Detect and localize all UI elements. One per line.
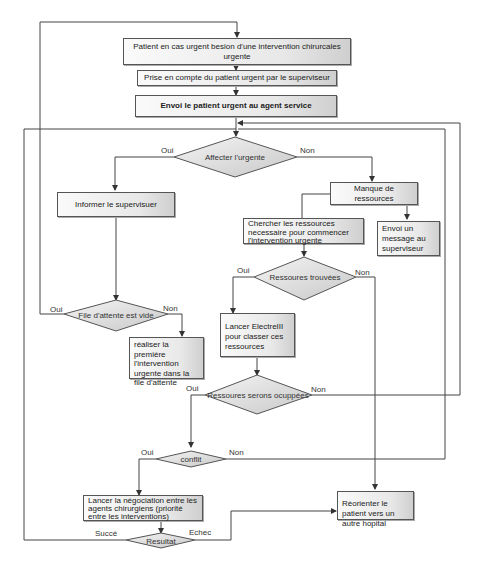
edge-label-trouvees-oui: Oui bbox=[237, 266, 249, 275]
decision-conflit: conflit bbox=[181, 455, 202, 464]
decision-file-attente-vide: File d'attente est vide bbox=[78, 311, 153, 320]
node-informer-superviseur: Informer le supervisuer bbox=[57, 192, 175, 217]
node-prise-en-compte: Prise en compte du patient urgent par le… bbox=[137, 70, 337, 86]
decision-resultat: Resultat bbox=[146, 537, 175, 546]
node-patient-urgent: Patient en cas urgent besion d'une inter… bbox=[123, 38, 351, 65]
node-chercher-ressources: Chercher les ressources necessaire pour … bbox=[243, 218, 364, 244]
edge-label-occupees-oui: Oui bbox=[186, 384, 198, 393]
node-reorienter-patient: Réorienter le patient vers un autre hopi… bbox=[337, 491, 414, 520]
node-lancer-electre: Lancer ElectreIII pour classer ces resso… bbox=[220, 313, 295, 357]
edge-label-resultat-echec: Echec bbox=[189, 528, 211, 537]
edge-label-affecter-oui: Oui bbox=[161, 146, 173, 155]
edge-label-file-non: Non bbox=[163, 304, 178, 313]
node-envoi-message: Envoi un message au superviseur bbox=[377, 221, 440, 256]
node-realiser-premiere: réaliser la première l'intervention urge… bbox=[129, 337, 204, 379]
edge-label-file-oui: Oui bbox=[50, 305, 62, 314]
node-lancer-negociation: Lancer la négociation entre les agents c… bbox=[83, 495, 203, 521]
edge-label-trouvees-non: Non bbox=[355, 268, 370, 277]
edge-label-resultat-succes: Succé bbox=[95, 529, 117, 538]
decision-ressources-trouvees: Ressoures trouvées bbox=[269, 273, 340, 282]
edge-label-conflit-oui: Oui bbox=[141, 448, 153, 457]
edge-label-occupees-non: Non bbox=[311, 385, 326, 394]
decision-ressources-occupees: Ressoures serons ocuppées bbox=[207, 391, 308, 400]
edge-label-conflit-non: Non bbox=[229, 448, 244, 457]
edge-label-affecter-non: Non bbox=[300, 146, 315, 155]
node-envoi-agent-service: Envoi le patient urgent au agent service bbox=[135, 95, 337, 117]
decision-affecter-urgente: Affecter l'urgente bbox=[205, 153, 265, 162]
node-manque-ressources: Manque de ressources bbox=[330, 182, 418, 205]
